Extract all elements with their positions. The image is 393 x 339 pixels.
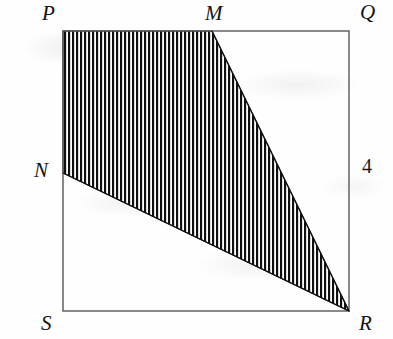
side-length-label: 4	[362, 156, 372, 176]
vertex-label-s: S	[41, 313, 52, 334]
vertex-label-r: R	[359, 313, 372, 334]
shaded-region-pmrn	[63, 31, 349, 311]
geometry-figure: P M Q N 4 S R	[0, 0, 393, 339]
vertex-label-n: N	[34, 160, 48, 181]
vertex-label-p: P	[42, 3, 55, 24]
diagram-canvas	[0, 0, 393, 339]
vertex-label-q: Q	[360, 2, 375, 23]
vertex-label-m: M	[205, 3, 223, 24]
